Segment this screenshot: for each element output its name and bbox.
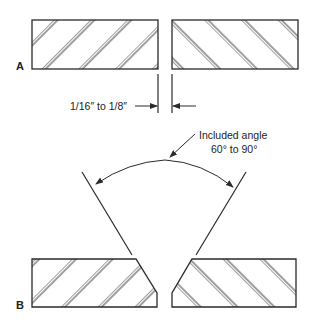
bevel-extension-right (196, 172, 246, 255)
plate-a-left (32, 20, 158, 69)
plate-a-right (172, 20, 298, 69)
angle-leader-arrow (170, 134, 195, 157)
included-angle-arc (96, 160, 165, 184)
angle-range-label: 60° to 90° (211, 143, 257, 155)
plate-b-left (32, 259, 157, 307)
weld-joint-diagram: A B 1/16″ to 1/8″ Included angle 60° to … (0, 0, 316, 325)
included-angle-arc-right (165, 160, 233, 187)
part-b-v-groove-joint (32, 134, 296, 307)
angle-title-label: Included angle (199, 129, 267, 141)
bevel-extension-left (82, 172, 132, 255)
label-part-a: A (16, 60, 24, 72)
plate-b-right (172, 259, 296, 307)
label-part-b: B (16, 299, 24, 311)
gap-dimension-label: 1/16″ to 1/8″ (70, 100, 127, 112)
diagram-svg: A B 1/16″ to 1/8″ Included angle 60° to … (0, 0, 316, 325)
